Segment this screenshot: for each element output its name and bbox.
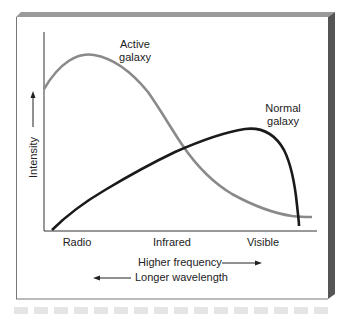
active-galaxy-label-line2: galaxy <box>119 51 151 64</box>
y-axis-label: Intensity <box>27 137 39 178</box>
normal-galaxy-label-line2: galaxy <box>267 115 299 128</box>
x-label-infrared: Infrared <box>153 236 191 249</box>
cropped-caption <box>14 307 332 314</box>
x-label-visible: Visible <box>247 236 279 249</box>
higher-frequency-label: Higher frequency <box>138 256 222 269</box>
normal-galaxy-curve <box>52 129 299 230</box>
normal-galaxy-label-line1: Normal <box>265 102 300 115</box>
spectrum-figure: Active galaxy Normal galaxy Intensity Ra… <box>0 0 347 314</box>
active-galaxy-label-line1: Active <box>120 38 150 51</box>
arrow-right-icon <box>255 261 262 266</box>
x-label-radio: Radio <box>63 236 92 249</box>
frame-top-bevel <box>16 12 335 17</box>
arrow-left-icon <box>93 276 100 281</box>
arrow-up-icon <box>31 91 36 98</box>
frame-right-bevel <box>328 12 335 299</box>
longer-wavelength-label: Longer wavelength <box>135 271 228 284</box>
